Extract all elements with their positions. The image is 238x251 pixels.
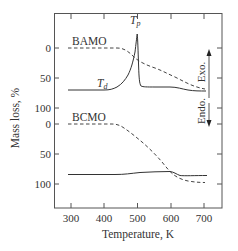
y-tick-label: 50	[40, 72, 52, 84]
x-tick-label: 500	[129, 212, 146, 224]
exo-label: Exo.	[195, 62, 207, 83]
y-axis-label: Mass loss, %	[9, 87, 22, 148]
exo-endo-indicator: Exo. Endo.	[195, 49, 212, 127]
bcmo-label: BCMO	[72, 111, 106, 123]
chart: 300 400 500 600 700 0 50 100 0 50 100 Te…	[0, 0, 238, 251]
arrow-down-icon	[207, 120, 212, 127]
bcmo-dta-curve	[68, 172, 207, 176]
x-tick-label: 300	[63, 212, 80, 224]
x-axis-label: Temperature, K	[102, 228, 175, 241]
x-tick-label: 700	[196, 212, 213, 224]
endo-label: Endo.	[195, 98, 207, 124]
bamo-label: BAMO	[72, 35, 107, 47]
bamo-tg-curve	[68, 48, 205, 89]
bcmo-tg-curve	[68, 124, 205, 183]
td-label: Td	[97, 77, 108, 91]
x-tick-label: 600	[163, 212, 180, 224]
x-tick-label: 400	[96, 212, 113, 224]
tp-label: Tp	[130, 14, 140, 28]
y-tick-label: 50	[40, 148, 52, 160]
y-tick-label: 100	[35, 178, 52, 190]
y-tick-label: 100	[35, 102, 52, 114]
y-tick-label: 0	[46, 118, 52, 130]
arrow-up-icon	[207, 49, 212, 56]
y-tick-label: 0	[46, 42, 52, 54]
